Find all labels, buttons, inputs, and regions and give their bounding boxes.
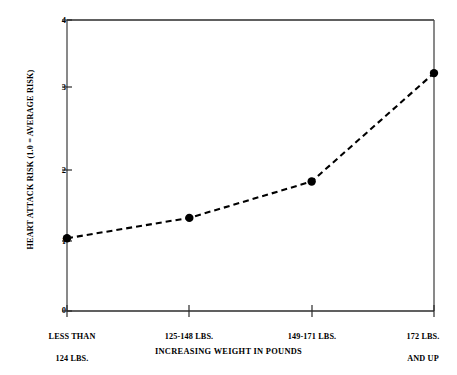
data-point-1: [185, 214, 193, 222]
x-tick-label-2-line1: 149-171 LBS.: [266, 331, 358, 342]
data-point-0: [63, 234, 71, 242]
x-axis-title: INCREASING WEIGHT IN POUNDS: [0, 347, 457, 356]
data-series-line: [67, 73, 434, 238]
x-tick-label-0-line1: LESS THAN: [26, 331, 118, 342]
data-point-3: [430, 69, 438, 77]
x-tick-label-1-line1: 125-148 LBS.: [143, 331, 235, 342]
x-tick-label-3-line1: 172 LBS.: [390, 331, 456, 342]
plot-area: [0, 0, 457, 375]
data-point-2: [307, 177, 315, 185]
data-series-markers: [63, 69, 438, 243]
chart-container: HEART ATTACK RISK (1.0 = AVERAGE RISK) 4…: [0, 0, 457, 375]
